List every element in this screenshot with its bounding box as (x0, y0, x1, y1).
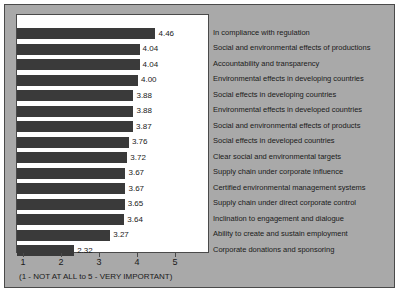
category-label-row: Ability to create and sustain employment (213, 229, 348, 240)
category-label-list: In compliance with regulationSocial and … (213, 14, 393, 253)
bar-row: 3.87 (17, 121, 208, 132)
category-label-row: Corporate donations and sponsoring (213, 244, 334, 255)
bar-value-label: 3.67 (128, 169, 144, 177)
bar (17, 90, 133, 101)
bar-value-label: 3.88 (136, 92, 152, 100)
category-label-row: In compliance with regulation (213, 27, 310, 38)
category-label-row: Supply chain under direct corporate cont… (213, 198, 356, 209)
bar (17, 214, 124, 225)
category-label-row: Social effects in developing countries (213, 89, 336, 100)
category-label-row: Certified environmental management syste… (213, 182, 366, 193)
category-label-row: Social and environmental effects of prod… (213, 120, 360, 131)
axis-tick-label: 1 (20, 258, 25, 267)
category-label-row: Accountability and transparency (213, 58, 319, 69)
bar (17, 152, 127, 163)
chart-panel: 4.464.044.044.003.883.883.873.763.723.67… (4, 4, 395, 288)
bar-row: 3.65 (17, 199, 208, 210)
bar (17, 106, 133, 117)
bar-row: 4.00 (17, 75, 208, 86)
bar (17, 121, 133, 132)
bar (17, 137, 129, 148)
axis-tick-label: 4 (134, 258, 139, 267)
category-label: Supply chain under direct corporate cont… (213, 199, 356, 207)
category-label-row: Supply chain under corporate influence (213, 167, 343, 178)
category-label: Corporate donations and sponsoring (213, 246, 334, 254)
category-label-row: Environmental effects in developing coun… (213, 74, 364, 85)
category-label: Environmental effects in developing coun… (213, 75, 364, 83)
category-label-row: Social and environmental effects of prod… (213, 43, 370, 54)
bar-value-label: 3.64 (127, 216, 143, 224)
bar-value-label: 4.04 (143, 45, 159, 53)
category-label: Clear social and environmental targets (213, 153, 341, 161)
bar-row: 3.27 (17, 230, 208, 241)
category-label-row: Inclination to engagement and dialogue (213, 213, 344, 224)
bar (17, 75, 138, 86)
bar-value-label: 3.65 (128, 200, 144, 208)
bar-row: 3.64 (17, 214, 208, 225)
category-label: Certified environmental management syste… (213, 184, 366, 192)
bar-value-label: 3.67 (128, 185, 144, 193)
category-label: Ability to create and sustain employment (213, 230, 348, 238)
category-label-row: Environmental effects in developed count… (213, 105, 362, 116)
category-label: Environmental effects in developed count… (213, 106, 362, 114)
category-label-row: Social effects in developed countries (213, 136, 335, 147)
bar-value-label: 4.04 (143, 61, 159, 69)
category-label: In compliance with regulation (213, 29, 310, 37)
bar (17, 28, 155, 39)
bar-value-label: 3.88 (136, 107, 152, 115)
bar-row: 3.76 (17, 137, 208, 148)
category-label: Social effects in developing countries (213, 91, 336, 99)
category-label: Social and environmental effects of prod… (213, 122, 360, 130)
category-label: Accountability and transparency (213, 60, 319, 68)
bar-value-label: 4.46 (158, 30, 174, 38)
category-label: Social effects in developed countries (213, 137, 335, 145)
bar-row: 3.88 (17, 106, 208, 117)
category-label: Supply chain under corporate influence (213, 168, 343, 176)
bar-row: 3.88 (17, 90, 208, 101)
bar (17, 199, 125, 210)
category-label: Inclination to engagement and dialogue (213, 215, 344, 223)
category-label-row: Clear social and environmental targets (213, 151, 341, 162)
axis-tick-label: 2 (58, 258, 63, 267)
bar-row: 3.67 (17, 183, 208, 194)
axis-caption: (1 - NOT AT ALL to 5 - VERY IMPORTANT) (19, 273, 172, 281)
axis-tick-label: 5 (172, 258, 177, 267)
bar-row: 4.46 (17, 28, 208, 39)
bar-row: 3.67 (17, 168, 208, 179)
bar-value-label: 3.76 (132, 138, 148, 146)
axis-tick-label: 3 (96, 258, 101, 267)
plot-area: 4.464.044.044.003.883.883.873.763.723.67… (16, 14, 209, 253)
bar (17, 44, 140, 55)
bar-value-label: 3.72 (130, 154, 146, 162)
bar-value-label: 3.27 (113, 231, 129, 239)
bar-row: 4.04 (17, 44, 208, 55)
category-label: Social and environmental effects of prod… (213, 44, 370, 52)
bar (17, 59, 140, 70)
bar-row: 4.04 (17, 59, 208, 70)
bar (17, 230, 110, 241)
bar-value-label: 3.87 (136, 123, 152, 131)
bar (17, 168, 125, 179)
bar-row: 3.72 (17, 152, 208, 163)
bar-value-label: 4.00 (141, 76, 157, 84)
bar (17, 183, 125, 194)
bars-layer: 4.464.044.044.003.883.883.873.763.723.67… (17, 15, 208, 252)
